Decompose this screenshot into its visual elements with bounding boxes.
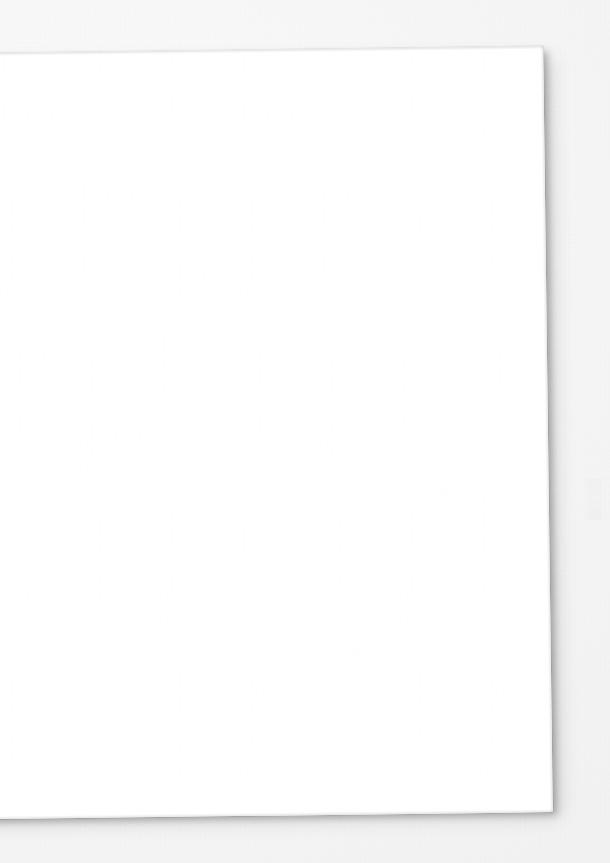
showthrough-line: ········ ···· ·········· ······ ····· ··… — [234, 309, 406, 327]
showthrough-line: ······· ··········· ····· ········ — [313, 377, 450, 394]
paper-sheet: ······ ········ ···· ········· ······ ··… — [0, 46, 553, 820]
showthrough-footer: ······ ········· ····· — [323, 550, 408, 565]
showthrough-body-lower: ·· ····· ······ ········ ····· ···· ····… — [287, 480, 432, 528]
paper-grain-texture — [0, 46, 553, 820]
showthrough-line: ········ ···· ··········· ······ ··· — [287, 495, 431, 512]
showthrough-line: ····· ·········· ······ ···· ········ — [235, 325, 407, 343]
showthrough-subheader: ········· ······ — [420, 99, 493, 116]
showthrough-header-line: ······ ········ ···· — [401, 59, 485, 75]
showthrough-line: ·········· ····· ······· ··········· ··· — [235, 340, 407, 358]
showthrough-line: ···· ········· ············ ····· — [287, 511, 431, 528]
showthrough-body-mid: ······· ··········· ····· ········ — [313, 377, 450, 394]
showthrough-body-upper: ···· ······· ····· ········· ····· ·····… — [234, 294, 407, 358]
showthrough-line: ·· ····· ······ ········ ····· ···· — [287, 480, 431, 497]
showthrough-header: ······ ········ ···· — [401, 59, 485, 75]
paper-surface-texture — [0, 46, 553, 820]
backdrop-stray-mark — [586, 478, 602, 520]
scanned-page-viewport: ······ ········ ···· ········· ······ ··… — [0, 0, 610, 863]
showthrough-line: ······ ········· ····· — [323, 550, 408, 565]
showthrough-subheader-line: ········· ······ — [420, 99, 493, 116]
showthrough-line: ···· ······· ····· ········· ····· ·····… — [234, 294, 406, 312]
